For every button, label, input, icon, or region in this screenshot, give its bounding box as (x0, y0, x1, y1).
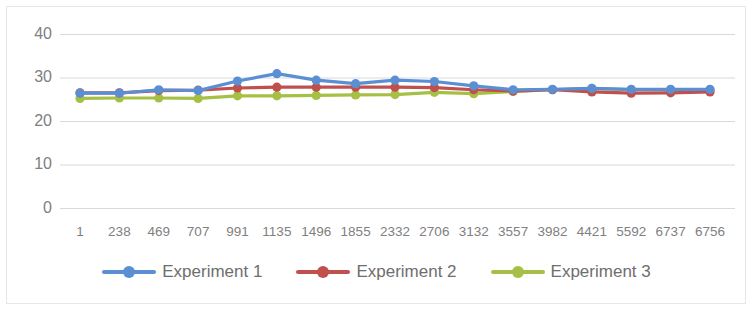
x-axis-tick-label: 5592 (616, 224, 646, 239)
x-axis-tick-label: 6756 (695, 224, 725, 239)
y-axis-tick-label: 20 (12, 112, 52, 130)
data-point (627, 85, 636, 94)
gridlines (60, 35, 735, 209)
x-axis-tick-label: 469 (147, 224, 170, 239)
data-point (548, 85, 557, 94)
x-axis-tick-label: 6737 (656, 224, 686, 239)
x-axis-tick-label: 1 (76, 224, 84, 239)
legend-label: Experiment 1 (162, 262, 262, 282)
series-layer (75, 69, 714, 103)
data-point (272, 83, 281, 92)
data-point (351, 79, 360, 88)
data-point (272, 69, 281, 78)
data-point (312, 91, 321, 100)
legend-dot (123, 266, 135, 278)
y-axis-tick-label: 0 (12, 199, 52, 217)
legend-item-1[interactable]: Experiment 1 (102, 262, 262, 282)
legend-dot (512, 266, 524, 278)
x-axis-tick-label: 3982 (537, 224, 567, 239)
x-axis-tick-label: 1135 (262, 224, 291, 239)
x-axis-tick-label: 707 (187, 224, 210, 239)
data-point (194, 86, 203, 95)
chart-legend: Experiment 1Experiment 2Experiment 3 (0, 262, 753, 282)
data-point (509, 85, 518, 94)
data-point (115, 89, 124, 98)
y-axis-tick-label: 40 (12, 25, 52, 43)
legend-label: Experiment 2 (356, 262, 456, 282)
legend-marker-icon (296, 263, 350, 281)
data-point (194, 94, 203, 103)
data-point (666, 85, 675, 94)
legend-item-2[interactable]: Experiment 2 (296, 262, 456, 282)
x-axis-tick-label: 2706 (419, 224, 449, 239)
legend-marker-icon (102, 263, 156, 281)
x-axis-tick-label: 4421 (577, 224, 607, 239)
x-axis-tick-label: 1496 (301, 224, 331, 239)
data-point (75, 89, 84, 98)
x-axis-tick-label: 2332 (380, 224, 410, 239)
legend-marker-icon (491, 263, 545, 281)
data-point (469, 81, 478, 90)
data-point (154, 85, 163, 94)
line-chart: 403020100 123846970799111351496185523322… (0, 0, 753, 311)
data-point (430, 77, 439, 86)
x-axis-tick-label: 3557 (498, 224, 528, 239)
x-axis-tick-label: 1855 (341, 224, 371, 239)
data-point (587, 84, 596, 93)
data-point (233, 91, 242, 100)
y-axis-tick-label: 10 (12, 155, 52, 173)
data-point (233, 76, 242, 85)
legend-item-3[interactable]: Experiment 3 (491, 262, 651, 282)
x-axis-tick-label: 3132 (459, 224, 489, 239)
data-point (390, 76, 399, 85)
x-axis-tick-label: 991 (226, 224, 249, 239)
y-axis-tick-label: 30 (12, 68, 52, 86)
x-axis-tick-label: 238 (108, 224, 131, 239)
data-point (705, 85, 714, 94)
data-point (272, 91, 281, 100)
legend-dot (317, 266, 329, 278)
legend-label: Experiment 3 (551, 262, 651, 282)
data-point (312, 76, 321, 85)
